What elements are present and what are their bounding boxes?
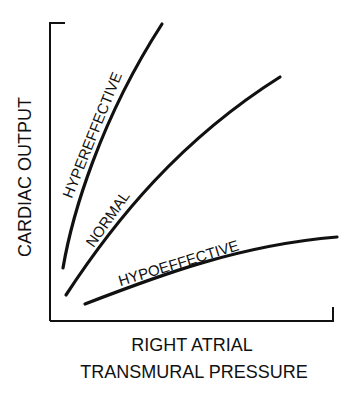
- label-hypereffective: HYPEREFFECTIVE: [59, 70, 125, 201]
- label-hypoeffective: HYPOEFFECTIVE: [116, 236, 241, 289]
- label-normal: NORMAL: [82, 188, 133, 250]
- y-axis: [50, 23, 65, 321]
- x-axis-label-line2: TRANSMURAL PRESSURE: [80, 362, 307, 382]
- x-axis: [50, 307, 333, 321]
- x-axis-label-line1: RIGHT ATRIAL: [131, 335, 252, 355]
- cardiac-output-diagram: HYPEREFFECTIVE NORMAL HYPOEFFECTIVE CARD…: [0, 0, 351, 398]
- y-axis-label: CARDIAC OUTPUT: [15, 97, 35, 257]
